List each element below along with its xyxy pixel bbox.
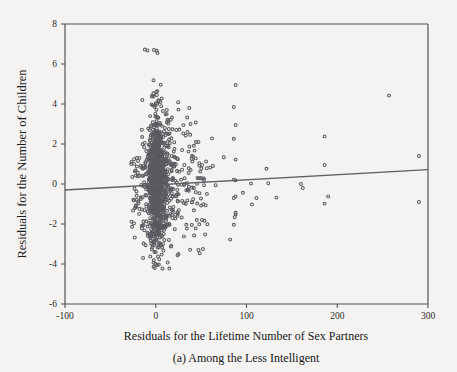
figure-caption: (a) Among the Less Intelligent <box>173 351 320 365</box>
y-tick-label: -6 <box>49 299 57 309</box>
x-tick-label: 300 <box>421 311 436 321</box>
scatter-plot-figure: -6-4-202468 -1000100200300 Residuals for… <box>0 0 457 372</box>
y-tick-label: 4 <box>52 99 57 109</box>
x-tick-label: -100 <box>56 311 74 321</box>
y-tick-label: -2 <box>49 219 57 229</box>
x-tick-label: 0 <box>153 311 158 321</box>
x-tick-label: 100 <box>239 311 254 321</box>
x-axis-label: Residuals for the Lifetime Number of Sex… <box>124 329 369 343</box>
y-tick-label: 8 <box>52 19 57 29</box>
y-axis-label: Residuals for the Number of Children <box>15 69 29 259</box>
y-tick-label: -4 <box>49 259 57 269</box>
y-tick-label: 2 <box>52 139 57 149</box>
x-tick-label: 200 <box>330 311 345 321</box>
y-tick-label: 6 <box>52 59 57 69</box>
y-tick-label: 0 <box>52 179 57 189</box>
